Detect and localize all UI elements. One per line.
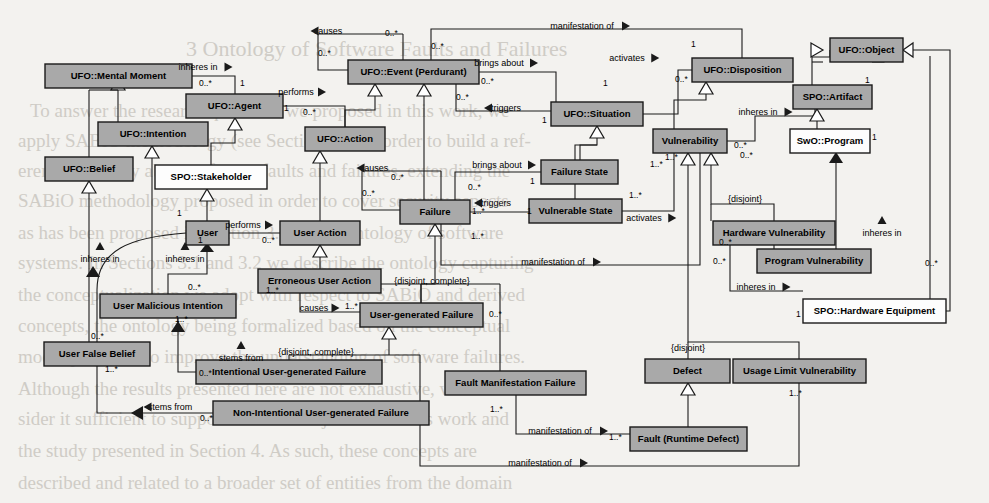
multiplicity-label: 1: [198, 235, 203, 245]
multiplicity-label: 1..*: [471, 231, 484, 241]
multiplicity-label: 1..*: [629, 190, 642, 200]
direction-arrow-icon: [783, 283, 791, 292]
class-name-label: Defect: [673, 365, 703, 376]
relation-label-text: inheres in: [738, 107, 777, 117]
multiplicity-label: 0..*: [199, 78, 212, 88]
multiplicity-label: 1: [527, 206, 532, 216]
class-box-mental_moment[interactable]: UFO::Mental Moment: [45, 64, 192, 88]
relation-label-text: inheres in: [80, 254, 119, 264]
class-box-disposition[interactable]: UFO::Disposition: [692, 58, 793, 82]
class-name-label: UFO::Object: [839, 44, 896, 55]
class-box-user_action[interactable]: User Action: [280, 221, 360, 245]
multiplicity-label: 0..*: [675, 74, 688, 84]
relation-label-text: stems from: [148, 402, 193, 412]
relation-label-text: activates: [609, 53, 645, 63]
direction-arrow-icon: [96, 242, 105, 250]
relation-label-inheres_in_program: inheres in: [862, 216, 901, 238]
class-box-agent[interactable]: UFO::Agent: [186, 94, 283, 118]
multiplicity-label: 1..*: [490, 404, 503, 414]
relation-label-stems_from_intentional: stems from: [219, 341, 264, 363]
class-box-layer: UFO::Mental MomentUFO::AgentUFO::Intenti…: [44, 38, 946, 451]
multiplicity-label: 1: [796, 309, 801, 319]
relation-label-text: manifestation of: [550, 21, 614, 31]
multiplicity-label: 0..*: [719, 237, 732, 247]
multiplicity-label: 1..*: [266, 285, 279, 295]
class-box-action[interactable]: UFO::Action: [305, 127, 385, 151]
class-box-artifact[interactable]: SPO::Artifact: [793, 85, 872, 109]
multiplicity-label: 0..*: [199, 368, 212, 378]
class-box-failure[interactable]: Failure: [400, 200, 470, 224]
relation-label-text: manifestation of: [528, 426, 592, 436]
diagram-canvas: 3 Ontology of Software Faults and Failur…: [0, 0, 989, 503]
direction-arrow-icon: [237, 341, 246, 349]
relation-label-text: performs: [225, 220, 261, 230]
multiplicity-label: 1: [530, 176, 535, 186]
class-name-label: Usage Limit Vulnerability: [743, 365, 857, 376]
class-name-label: UFO::Disposition: [703, 64, 781, 75]
direction-arrow-icon: [530, 59, 538, 68]
class-name-label: UFO::Mental Moment: [71, 70, 167, 81]
class-box-stakeholder[interactable]: SPO::Stakeholder: [155, 165, 267, 189]
class-name-label: Failure: [419, 206, 450, 217]
multiplicity-label: 0..*: [713, 256, 726, 266]
multiplicity-label: 0..*: [303, 107, 316, 117]
multiplicity-label: 1..*: [105, 364, 118, 374]
multiplicity-label: 0..*: [468, 182, 481, 192]
multiplicity-label: 0..*: [188, 282, 201, 292]
multiplicity-label: 1: [177, 208, 182, 218]
multiplicity-label: 0..*: [481, 76, 494, 86]
relation-label-text: inheres in: [862, 228, 901, 238]
direction-arrow-icon: [785, 108, 793, 117]
multiplicity-label: 0..*: [200, 413, 213, 423]
class-name-label: User Malicious Intention: [113, 300, 223, 311]
multiplicity-label: 0..*: [318, 48, 331, 58]
relation-label-performs_user: performs: [225, 220, 273, 230]
class-box-event[interactable]: UFO::Event (Perdurant): [348, 60, 479, 84]
class-box-user[interactable]: User: [186, 221, 229, 245]
class-box-user_generated_failure[interactable]: User-generated Failure: [360, 303, 483, 327]
multiplicity-label: 1: [603, 78, 608, 88]
relation-label-text: brings about: [474, 58, 524, 68]
class-box-situation[interactable]: UFO::Situation: [551, 102, 643, 126]
multiplicity-label: 0..*: [362, 188, 375, 198]
relation-label-text: stems from: [219, 353, 264, 363]
relation-label-text: triggers: [481, 198, 512, 208]
class-box-program_vulnerability[interactable]: Program Vulnerability: [757, 249, 871, 273]
class-box-defect[interactable]: Defect: [645, 359, 730, 383]
class-box-intention[interactable]: UFO::Intention: [98, 122, 208, 146]
class-box-vulnerability[interactable]: Vulnerability: [653, 129, 727, 153]
relation-label-causes_failure: causes: [357, 163, 389, 173]
class-name-label: UFO::Agent: [208, 100, 262, 111]
direction-arrow-icon: [332, 304, 340, 313]
class-box-intentional_ugf[interactable]: Intentional User-generated Failure: [196, 360, 382, 384]
class-box-program[interactable]: SwO::Program: [790, 129, 870, 153]
class-box-fault_manifestation_failure[interactable]: Fault Manifestation Failure: [445, 371, 586, 395]
multiplicity-label: 0..*: [431, 41, 444, 51]
class-name-label: UFO::Event (Perdurant): [360, 66, 466, 77]
multiplicity-label: 1..*: [789, 388, 802, 398]
class-box-non_intentional_ugf[interactable]: Non-Intentional User-generated Failure: [213, 401, 429, 425]
class-box-usage_limit_vulnerability[interactable]: Usage Limit Vulnerability: [733, 359, 866, 383]
class-box-vulnerable_state[interactable]: Vulnerable State: [529, 199, 622, 223]
class-name-label: Non-Intentional User-generated Failure: [233, 407, 409, 418]
class-box-user_false_belief[interactable]: User False Belief: [44, 342, 150, 366]
class-name-label: UFO::Situation: [563, 108, 630, 119]
relation-label-brings_about_failure_state: brings about: [472, 160, 536, 170]
direction-arrow-icon: [265, 221, 273, 230]
class-box-belief[interactable]: UFO::Belief: [45, 157, 133, 181]
multiplicity-label: 0..*: [734, 140, 747, 150]
multiplicity-label: 0..*: [391, 172, 404, 182]
multiplicity-label: 1: [240, 78, 245, 88]
class-box-user_malicious_intention[interactable]: User Malicious Intention: [100, 294, 236, 318]
multiplicity-label: 0..*: [925, 258, 938, 268]
relation-label-activates_vulnerable: activates: [626, 213, 676, 223]
class-name-label: SwO::Program: [797, 135, 864, 146]
direction-arrow-icon: [528, 161, 536, 170]
relation-label-text: inheres in: [178, 62, 217, 72]
class-name-label: Vulnerability: [662, 135, 719, 146]
class-box-fault[interactable]: Fault (Runtime Defect): [630, 427, 747, 451]
class-box-hardware_equipment[interactable]: SPO::Hardware Equipment: [803, 299, 946, 323]
class-box-failure_state[interactable]: Failure State: [541, 160, 618, 184]
multiplicity-label: 1..*: [472, 206, 485, 216]
class-box-object[interactable]: UFO::Object: [830, 38, 903, 62]
